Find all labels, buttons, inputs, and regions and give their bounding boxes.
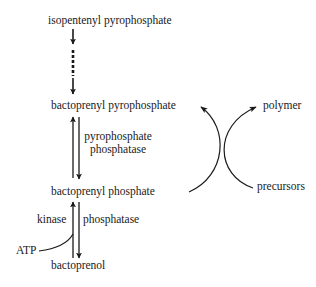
cycle-precursors: precursors <box>257 180 305 193</box>
kinase-phosphatase-arrows <box>39 202 79 258</box>
enzyme-pyrophosphate-phosphatase: pyrophosphate phosphatase <box>84 130 152 156</box>
enzyme-label-line1: pyrophosphate <box>84 130 152 143</box>
cycle-polymer: polymer <box>263 99 301 112</box>
enzyme-kinase: kinase <box>37 213 66 226</box>
node-isopentenyl-pyrophosphate: isopentenyl pyrophosphate <box>48 14 172 27</box>
atp-input-curve <box>39 234 73 251</box>
enzyme-phosphatase: phosphatase <box>83 213 139 226</box>
node-bactoprenol: bactoprenol <box>51 259 105 272</box>
cycle-curves <box>189 107 256 192</box>
cofactor-atp: ATP <box>16 244 36 257</box>
pyrophosphatase-arrows <box>73 117 79 179</box>
node-bactoprenyl-phosphate: bactoprenyl phosphate <box>51 185 155 198</box>
pathway-diagram: isopentenyl pyrophosphate bactoprenyl py… <box>0 0 316 287</box>
enzyme-label-line2: phosphatase <box>84 143 152 156</box>
pathway-arrows <box>0 0 316 287</box>
node-bactoprenyl-pyrophosphate: bactoprenyl pyrophosphate <box>51 99 176 112</box>
